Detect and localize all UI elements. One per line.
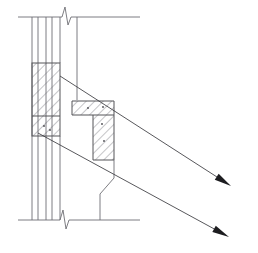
break-bottom-icon: [56, 210, 72, 229]
hatch-dot-5: [101, 123, 103, 125]
hatch-dot-6: [103, 140, 105, 142]
hatch-dot-1: [43, 125, 45, 127]
leader-lower-arrowhead: [212, 226, 229, 237]
lower-slab-edge-group: [18, 210, 140, 229]
section-drawing-svg: [0, 0, 258, 253]
hatch-dot-3: [87, 107, 89, 109]
hatched-column-fill: [32, 63, 60, 136]
stepped-base-profile: [100, 160, 114, 220]
hatched-tee-section: [72, 101, 114, 160]
hatch-dot-4: [102, 106, 104, 108]
leader-upper-arrowhead: [215, 174, 231, 186]
leader-upper-line: [60, 76, 224, 182]
leader-lower-group: [38, 133, 229, 237]
leader-upper-group: [60, 76, 231, 186]
section-drawing-canvas: [0, 0, 258, 253]
hatched-column-block: [32, 63, 60, 136]
hatch-dot-2: [49, 129, 51, 131]
leader-lower-line: [38, 133, 222, 233]
upper-slab-edge-group: [18, 7, 140, 25]
